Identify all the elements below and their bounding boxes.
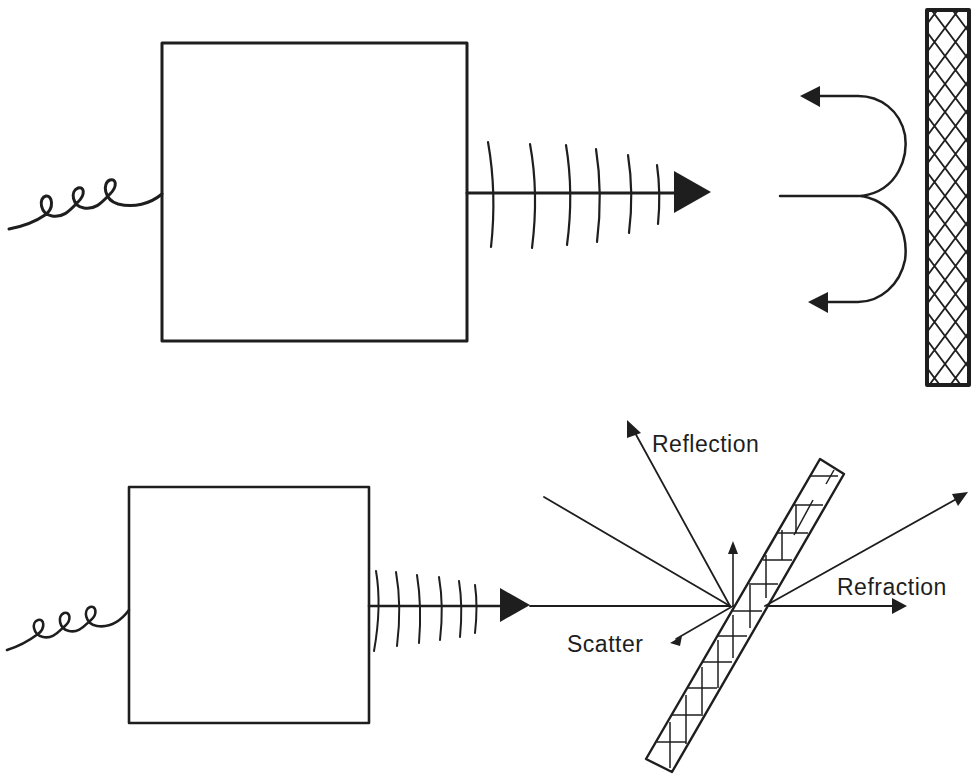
wavefront-arrow-icon: [369, 571, 530, 651]
coil-wire-icon: [9, 180, 162, 229]
refraction-label: Refraction: [837, 574, 947, 600]
scatter-label: Scatter: [567, 631, 643, 657]
transmitted-ray: [765, 598, 907, 614]
wavefront-arrow-icon: [467, 142, 711, 248]
bottom-figure: Reflection Refraction Scatter: [7, 420, 968, 772]
normal-arrow: [728, 541, 738, 606]
source-box: [129, 487, 369, 723]
reflection-return-arrows-icon: [780, 86, 906, 313]
top-figure: [9, 10, 969, 385]
coil-wire-icon: [7, 607, 129, 650]
crosshatched-plate-icon: [927, 10, 969, 385]
wave-interaction-diagram: Reflection Refraction Scatter: [0, 0, 980, 779]
reflection-label: Reflection: [652, 431, 759, 457]
source-box: [162, 43, 467, 341]
